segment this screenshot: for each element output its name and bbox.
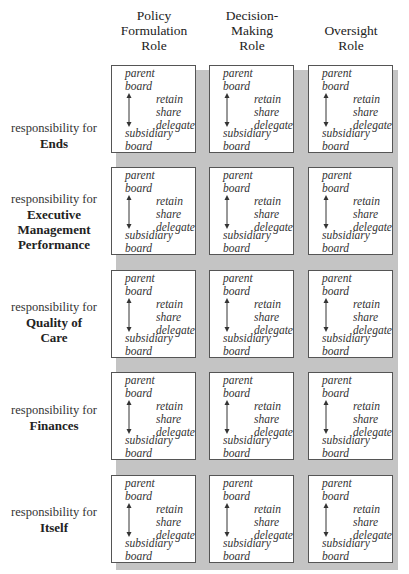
double-arrow-icon: [126, 298, 132, 332]
subsidiary-board-label: subsidiary: [223, 434, 271, 446]
double-arrow-icon: [126, 400, 132, 434]
subsidiary-board-label: subsidiary: [125, 127, 173, 139]
row-label-topic: Quality of: [0, 315, 108, 330]
row-label-prefix: responsibility for: [0, 505, 108, 520]
option-retain: retain: [353, 503, 380, 515]
column-heading: Decision-MakingRole: [204, 8, 300, 53]
row-label: responsibility forEnds: [0, 121, 108, 151]
parent-board-label: parent: [125, 477, 155, 489]
responsibility-cell: parentboardretainsharedelegatesubsidiary…: [111, 270, 196, 358]
column-heading-line: Policy: [106, 8, 202, 23]
row-label-topic: Ends: [0, 136, 108, 151]
parent-board-label: parent: [322, 477, 352, 489]
parent-board-label: parent: [223, 169, 253, 181]
option-retain: retain: [156, 298, 183, 310]
option-share: share: [353, 413, 378, 425]
option-retain: retain: [353, 195, 380, 207]
double-arrow-icon: [224, 298, 230, 332]
double-arrow-icon: [323, 195, 329, 229]
responsibility-cell: parentboardretainsharedelegatesubsidiary…: [209, 270, 294, 358]
row-label: responsibility forExecutiveManagementPer…: [0, 192, 108, 252]
responsibility-cell: parentboardretainsharedelegatesubsidiary…: [209, 65, 294, 153]
option-share: share: [353, 311, 378, 323]
parent-board-label: board: [322, 490, 349, 502]
row-label-topic: Finances: [0, 418, 108, 433]
subsidiary-board-label: board: [125, 345, 152, 357]
option-share: share: [156, 106, 181, 118]
subsidiary-board-label: subsidiary: [223, 229, 271, 241]
column-heading-line: [303, 8, 399, 23]
subsidiary-board-label: subsidiary: [322, 537, 370, 549]
row-label-topic: Itself: [0, 520, 108, 535]
parent-board-label: board: [125, 182, 152, 194]
subsidiary-board-label: subsidiary: [125, 537, 173, 549]
subsidiary-board-label: board: [223, 242, 250, 254]
row-label-topic: Management: [0, 222, 108, 237]
option-share: share: [254, 516, 279, 528]
responsibility-cell: parentboardretainsharedelegatesubsidiary…: [308, 270, 393, 358]
column-heading: OversightRole: [303, 8, 399, 53]
subsidiary-board-label: board: [322, 345, 349, 357]
row-label: responsibility forItself: [0, 505, 108, 535]
subsidiary-board-label: board: [223, 345, 250, 357]
option-retain: retain: [156, 93, 183, 105]
double-arrow-icon: [224, 93, 230, 127]
parent-board-label: parent: [125, 169, 155, 181]
parent-board-label: board: [322, 182, 349, 194]
subsidiary-board-label: board: [125, 242, 152, 254]
parent-board-label: parent: [125, 67, 155, 79]
parent-board-label: parent: [322, 169, 352, 181]
option-share: share: [156, 208, 181, 220]
responsibility-cell: parentboardretainsharedelegatesubsidiary…: [209, 372, 294, 460]
parent-board-label: parent: [322, 374, 352, 386]
option-retain: retain: [353, 400, 380, 412]
option-share: share: [353, 516, 378, 528]
parent-board-label: parent: [223, 272, 253, 284]
parent-board-label: board: [223, 490, 250, 502]
double-arrow-icon: [224, 503, 230, 537]
responsibility-cell: parentboardretainsharedelegatesubsidiary…: [209, 475, 294, 563]
column-heading: PolicyFormulationRole: [106, 8, 202, 53]
parent-board-label: board: [223, 285, 250, 297]
subsidiary-board-label: board: [125, 447, 152, 459]
row-label-topic: Care: [0, 330, 108, 345]
option-retain: retain: [254, 298, 281, 310]
parent-board-label: parent: [125, 272, 155, 284]
row-label-prefix: responsibility for: [0, 121, 108, 136]
double-arrow-icon: [224, 400, 230, 434]
double-arrow-icon: [323, 503, 329, 537]
option-share: share: [254, 106, 279, 118]
parent-board-label: parent: [125, 374, 155, 386]
responsibility-cell: parentboardretainsharedelegatesubsidiary…: [209, 167, 294, 255]
column-heading-line: Formulation: [106, 23, 202, 38]
column-heading-line: Decision-: [204, 8, 300, 23]
subsidiary-board-label: subsidiary: [322, 332, 370, 344]
double-arrow-icon: [323, 298, 329, 332]
parent-board-label: board: [223, 387, 250, 399]
option-share: share: [254, 413, 279, 425]
option-retain: retain: [254, 400, 281, 412]
row-label: responsibility forFinances: [0, 403, 108, 433]
option-share: share: [156, 311, 181, 323]
subsidiary-board-label: board: [322, 242, 349, 254]
double-arrow-icon: [323, 93, 329, 127]
double-arrow-icon: [126, 195, 132, 229]
parent-board-label: board: [322, 80, 349, 92]
parent-board-label: board: [125, 490, 152, 502]
parent-board-label: board: [223, 80, 250, 92]
row-label-prefix: responsibility for: [0, 300, 108, 315]
subsidiary-board-label: subsidiary: [223, 537, 271, 549]
parent-board-label: board: [125, 387, 152, 399]
responsibility-cell: parentboardretainsharedelegatesubsidiary…: [111, 475, 196, 563]
subsidiary-board-label: subsidiary: [125, 332, 173, 344]
column-heading-line: Oversight: [303, 23, 399, 38]
responsibility-cell: parentboardretainsharedelegatesubsidiary…: [308, 65, 393, 153]
parent-board-label: board: [322, 387, 349, 399]
double-arrow-icon: [126, 93, 132, 127]
option-share: share: [353, 106, 378, 118]
responsibility-cell: parentboardretainsharedelegatesubsidiary…: [308, 372, 393, 460]
parent-board-label: parent: [322, 67, 352, 79]
subsidiary-board-label: board: [125, 550, 152, 562]
row-label-topic: Executive: [0, 207, 108, 222]
row-label-prefix: responsibility for: [0, 192, 108, 207]
